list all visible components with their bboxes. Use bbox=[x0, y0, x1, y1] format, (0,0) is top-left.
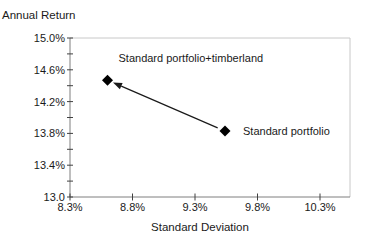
y-tick-label: 14.2% bbox=[34, 96, 65, 108]
data-point-standard-portfolio bbox=[220, 126, 231, 137]
x-tick-label: 8.8% bbox=[120, 201, 145, 213]
chart-figure: 15.0%14.6%14.2%13.8%13.4%13.08.3%8.8%9.3… bbox=[0, 0, 367, 244]
y-tick-label: 14.6% bbox=[34, 64, 65, 76]
plot-generated-layer: 15.0%14.6%14.2%13.8%13.4%13.08.3%8.8%9.3… bbox=[34, 32, 350, 213]
x-tick-label: 8.3% bbox=[57, 201, 82, 213]
trend-arrow-line bbox=[121, 86, 217, 128]
y-tick-label: 13.8% bbox=[34, 127, 65, 139]
x-tick-label: 10.3% bbox=[304, 201, 335, 213]
x-axis-title: Standard Deviation bbox=[151, 221, 249, 233]
y-tick-label: 13.4% bbox=[34, 159, 65, 171]
data-point-label-standard-portfolio: Standard portfolio bbox=[243, 125, 330, 137]
data-point-standard-portfolio-timberland bbox=[102, 75, 113, 86]
x-tick-label: 9.3% bbox=[182, 201, 207, 213]
y-tick-label: 15.0% bbox=[34, 32, 65, 44]
trend-arrow-head bbox=[113, 83, 123, 90]
x-tick-label: 9.8% bbox=[245, 201, 270, 213]
scatter-plot: 15.0%14.6%14.2%13.8%13.4%13.08.3%8.8%9.3… bbox=[0, 0, 367, 244]
data-point-label-standard-portfolio-timberland: Standard portfolio+timberland bbox=[119, 52, 264, 64]
y-axis-title: Annual Return bbox=[2, 9, 76, 21]
